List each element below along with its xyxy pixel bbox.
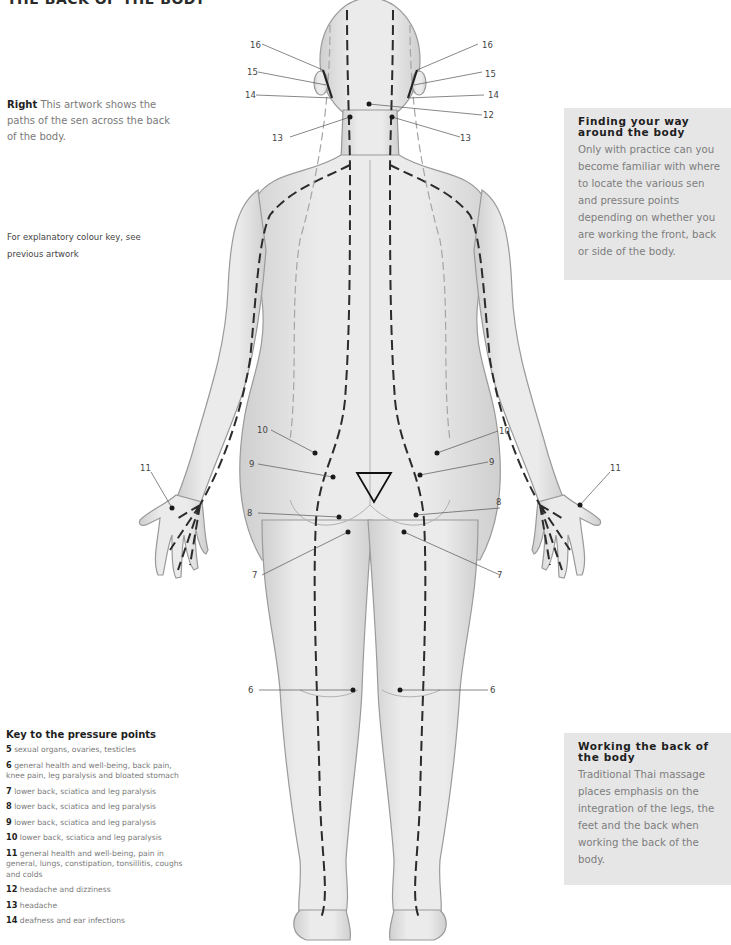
label-9-left: 9 <box>249 459 254 469</box>
key-number: 14 <box>6 915 17 925</box>
key-item: 6 general health and well-being, back pa… <box>6 760 186 782</box>
label-10-left: 10 <box>257 425 268 435</box>
label-15-right: 15 <box>485 69 496 79</box>
key-item: 8 lower back, sciatica and leg paralysis <box>6 801 186 813</box>
pressure-point-key: Key to the pressure points 5 sexual orga… <box>6 729 186 931</box>
key-item: 11 general health and well-being, pain i… <box>6 848 186 881</box>
panel-text: Only with practice can you become famili… <box>578 141 723 260</box>
label-10-right: 10 <box>499 426 510 436</box>
key-text: lower back, sciatica and leg paralysis <box>20 833 162 842</box>
label-11-left: 11 <box>140 463 151 473</box>
key-text: lower back, sciatica and leg paralysis <box>14 818 156 827</box>
label-7-right: 7 <box>497 570 502 580</box>
key-number: 8 <box>6 801 12 811</box>
label-13-left: 13 <box>272 133 283 143</box>
panel-text: Traditional Thai massage places emphasis… <box>578 766 723 868</box>
key-number: 11 <box>6 848 17 858</box>
working-back-panel: Working the back of the body Traditional… <box>564 733 731 885</box>
key-number: 10 <box>6 832 17 842</box>
label-8-right: 8 <box>496 497 501 507</box>
key-number: 12 <box>6 884 17 894</box>
key-text: headache and dizziness <box>20 885 111 894</box>
key-number: 6 <box>6 760 12 770</box>
key-number: 7 <box>6 786 12 796</box>
panel-title: Finding your way around the body <box>578 116 723 138</box>
label-16-right: 16 <box>482 40 493 50</box>
key-number: 13 <box>6 900 17 910</box>
key-item: 9 lower back, sciatica and leg paralysis <box>6 817 186 829</box>
key-item: 12 headache and dizziness <box>6 884 186 896</box>
key-item: 14 deafness and ear infections <box>6 915 186 927</box>
label-6-left: 6 <box>248 685 253 695</box>
label-15-left: 15 <box>247 67 258 77</box>
label-12: 12 <box>483 110 494 120</box>
key-text: sexual organs, ovaries, testicles <box>14 745 136 754</box>
key-number: 5 <box>6 744 12 754</box>
label-13-right: 13 <box>460 133 471 143</box>
label-14-right: 14 <box>488 90 499 100</box>
key-text: general health and well-being, back pain… <box>6 761 179 781</box>
key-text: deafness and ear infections <box>20 916 125 925</box>
key-text: lower back, sciatica and leg paralysis <box>14 787 156 796</box>
label-14-left: 14 <box>245 90 256 100</box>
label-6-right: 6 <box>490 685 495 695</box>
key-title: Key to the pressure points <box>6 729 186 740</box>
label-16-left: 16 <box>250 40 261 50</box>
key-item: 10 lower back, sciatica and leg paralysi… <box>6 832 186 844</box>
key-text: lower back, sciatica and leg paralysis <box>14 802 156 811</box>
label-7-left: 7 <box>252 570 257 580</box>
finding-your-way-panel: Finding your way around the body Only wi… <box>564 108 731 280</box>
key-text: headache <box>20 901 57 910</box>
label-11-right: 11 <box>610 463 621 473</box>
key-number: 9 <box>6 817 12 827</box>
label-8-left: 8 <box>247 508 252 518</box>
key-text: general health and well-being, pain in g… <box>6 849 182 879</box>
label-9-right: 9 <box>489 457 494 467</box>
panel-title: Working the back of the body <box>578 741 723 763</box>
key-item: 5 sexual organs, ovaries, testicles <box>6 744 186 756</box>
key-item: 13 headache <box>6 900 186 912</box>
key-item: 7 lower back, sciatica and leg paralysis <box>6 786 186 798</box>
